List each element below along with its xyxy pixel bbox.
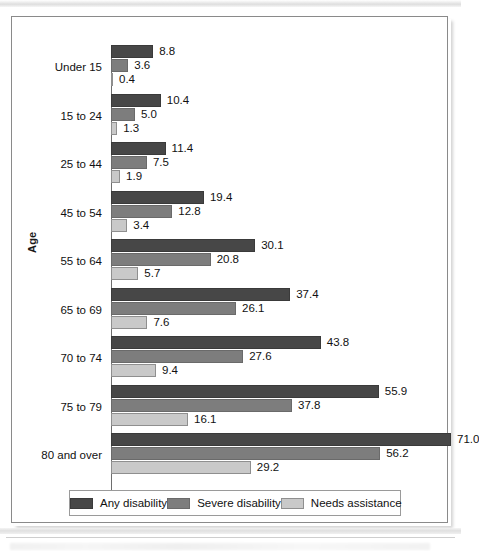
bar [111, 219, 127, 232]
bar [111, 108, 135, 121]
bar-value-label: 37.4 [296, 287, 318, 301]
bar-value-label: 71.0 [457, 432, 479, 446]
bar [111, 288, 290, 301]
legend-label-needs-assistance: Needs assistance [311, 497, 402, 509]
legend-item-any-disability: Any disability [70, 497, 167, 509]
bar-value-label: 26.1 [242, 301, 264, 315]
legend-label-any-disability: Any disability [100, 497, 167, 509]
bar-value-label: 20.8 [217, 252, 239, 266]
category-label: 70 to 74 [0, 336, 102, 381]
bar [111, 316, 147, 329]
bar [111, 122, 117, 135]
category-label: 25 to 44 [0, 142, 102, 187]
bar [111, 239, 255, 252]
bar [111, 142, 166, 155]
bar-group: 25 to 4411.47.51.9 [111, 142, 451, 187]
footer-source-note-illegible [10, 543, 430, 550]
bar [111, 170, 120, 183]
bar-value-label: 43.8 [327, 335, 349, 349]
footer-rule [6, 537, 455, 538]
bar [111, 399, 292, 412]
bar [111, 253, 211, 266]
bar [111, 45, 153, 58]
bar-value-label: 9.4 [162, 363, 178, 377]
scan-artifact-top [0, 0, 461, 7]
legend-swatch-any-disability [70, 498, 93, 509]
bar [111, 94, 161, 107]
bar-value-label: 5.7 [144, 266, 160, 280]
bar-value-label: 19.4 [210, 190, 232, 204]
bar-value-label: 37.8 [298, 398, 320, 412]
legend-swatch-severe-disability [167, 498, 190, 509]
bar-value-label: 7.6 [153, 315, 169, 329]
category-label: Under 15 [0, 45, 102, 90]
bar [111, 447, 380, 460]
bar-group: 15 to 2410.45.01.3 [111, 94, 451, 139]
category-label: 55 to 64 [0, 239, 102, 284]
category-label: 65 to 69 [0, 288, 102, 333]
bar [111, 364, 156, 377]
bar [111, 413, 188, 426]
bar [111, 302, 236, 315]
chart-legend: Any disability Severe disability Needs a… [69, 490, 401, 516]
bar-group: 75 to 7955.937.816.1 [111, 385, 451, 430]
legend-swatch-needs-assistance [281, 498, 304, 509]
bar [111, 267, 138, 280]
bar-value-label: 8.8 [159, 44, 175, 58]
bar [111, 461, 251, 474]
plot-area: Under 158.83.60.415 to 2410.45.01.325 to… [111, 45, 451, 485]
bar-value-label: 0.4 [119, 72, 135, 86]
bar-value-label: 3.4 [133, 218, 149, 232]
bar-value-label: 1.3 [123, 121, 139, 135]
bar-group: 70 to 7443.827.69.4 [111, 336, 451, 381]
bar-value-label: 56.2 [386, 446, 408, 460]
bar-group: 55 to 6430.120.85.7 [111, 239, 451, 284]
scan-artifact-bottom [0, 528, 461, 534]
bar-group: 80 and over71.056.229.2 [111, 433, 451, 478]
bar [111, 156, 147, 169]
category-label: 15 to 24 [0, 94, 102, 139]
bar [111, 336, 321, 349]
bar-value-label: 16.1 [194, 412, 216, 426]
bar-value-label: 55.9 [385, 384, 407, 398]
bar-value-label: 11.4 [172, 141, 194, 155]
bar-value-label: 7.5 [153, 155, 169, 169]
bar-value-label: 3.6 [134, 58, 150, 72]
bar [111, 191, 204, 204]
bar-value-label: 12.8 [178, 204, 200, 218]
bar [111, 385, 379, 398]
bar [111, 59, 128, 72]
chart-panel: Age Under 158.83.60.415 to 2410.45.01.32… [11, 16, 448, 523]
bar-value-label: 5.0 [141, 107, 157, 121]
bar-group: 65 to 6937.426.17.6 [111, 288, 451, 333]
bar-value-label: 29.2 [257, 460, 279, 474]
bar-value-label: 10.4 [167, 93, 189, 107]
category-label: 80 and over [0, 433, 102, 478]
bar [111, 73, 113, 86]
legend-item-severe-disability: Severe disability [167, 497, 281, 509]
bar [111, 433, 451, 446]
legend-item-needs-assistance: Needs assistance [281, 497, 402, 509]
legend-label-severe-disability: Severe disability [197, 497, 281, 509]
bar-group: Under 158.83.60.4 [111, 45, 451, 90]
bar-value-label: 1.9 [126, 169, 142, 183]
category-label: 75 to 79 [0, 385, 102, 430]
bar [111, 350, 243, 363]
bar-value-label: 30.1 [261, 238, 283, 252]
bar-value-label: 27.6 [249, 349, 271, 363]
bar [111, 205, 172, 218]
bar-group: 45 to 5419.412.83.4 [111, 191, 451, 236]
category-label: 45 to 54 [0, 191, 102, 236]
